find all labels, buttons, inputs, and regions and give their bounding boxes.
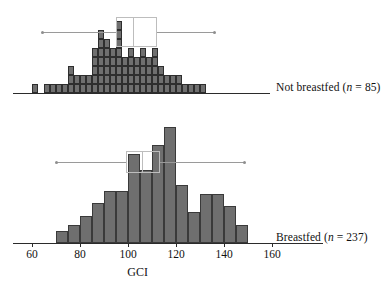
- histogram-bar: [116, 191, 128, 243]
- x-tick-label: 80: [74, 248, 86, 260]
- histogram-bar: [92, 203, 104, 243]
- boxplot-whisker-left-not-breastfed: [43, 32, 116, 33]
- histogram-bar: [236, 225, 248, 243]
- boxplot-cap-max-breastfed: [243, 161, 246, 164]
- dotplot-cell: [152, 57, 158, 66]
- axis-baseline-not-breastfed: [13, 93, 270, 94]
- series-label-breastfed: Breastfed (n = 237): [276, 231, 368, 243]
- x-tick-label: 160: [263, 248, 280, 260]
- histogram-bar: [212, 194, 224, 243]
- boxplot-median-line-breastfed: [142, 151, 143, 173]
- x-tick: [128, 243, 129, 247]
- histogram-bar: [56, 231, 68, 243]
- axis-baseline-breastfed: [13, 243, 323, 244]
- x-tick-label: 120: [167, 248, 184, 260]
- panel-breastfed: Breastfed (n = 237) 6080100120140160 GCI: [0, 118, 388, 248]
- histogram-bar: [188, 212, 200, 243]
- boxplot-cap-min-not-breastfed: [41, 31, 44, 34]
- x-tick: [176, 243, 177, 247]
- series-label-not-breastfed: Not breastfed (n = 85): [276, 81, 381, 93]
- boxplot-whisker-right-breastfed: [160, 162, 244, 163]
- dotplot-cell: [152, 48, 158, 57]
- boxplot-median-line-not-breastfed: [133, 17, 134, 47]
- dotplot-cell: [68, 66, 74, 75]
- histogram-bar: [140, 170, 152, 243]
- x-tick: [32, 243, 33, 247]
- dotplot-cell: [128, 48, 134, 57]
- histogram-bar: [80, 216, 92, 243]
- x-tick: [80, 243, 81, 247]
- histogram-bar: [104, 191, 116, 243]
- histogram-bar: [224, 206, 236, 243]
- x-tick: [272, 243, 273, 247]
- plot-area-breastfed: [0, 118, 388, 248]
- boxplot-whisker-left-breastfed: [56, 162, 126, 163]
- boxplot-cap-min-breastfed: [55, 161, 58, 164]
- sample-size-symbol: n: [346, 81, 352, 93]
- boxplot-box-not-breastfed: [116, 17, 157, 47]
- histogram-bar: [176, 185, 188, 243]
- boxplot-cap-max-not-breastfed: [213, 31, 216, 34]
- histogram-bar: [68, 225, 80, 243]
- dotplot-cell: [200, 84, 206, 93]
- dotplot-cell: [158, 66, 164, 75]
- x-tick-label: 60: [26, 248, 38, 260]
- x-tick-label: 100: [119, 248, 136, 260]
- panel-not-breastfed: Not breastfed (n = 85): [0, 0, 388, 100]
- dotplot-cell: [104, 39, 110, 48]
- x-tick: [224, 243, 225, 247]
- histogram-bar: [200, 194, 212, 243]
- dotplot-cell: [176, 75, 182, 84]
- dotplot-cell: [140, 48, 146, 57]
- dotplot-cell: [32, 84, 38, 93]
- figure-canvas: Not breastfed (n = 85) Breastfed (n = 23…: [0, 0, 388, 281]
- histogram-bar: [164, 127, 176, 243]
- boxplot-whisker-right-not-breastfed: [157, 32, 215, 33]
- axis-title-gci: GCI: [127, 265, 148, 280]
- dotplot-cell: [116, 48, 122, 57]
- x-tick-label: 140: [215, 248, 232, 260]
- sample-size-symbol: n: [328, 231, 334, 243]
